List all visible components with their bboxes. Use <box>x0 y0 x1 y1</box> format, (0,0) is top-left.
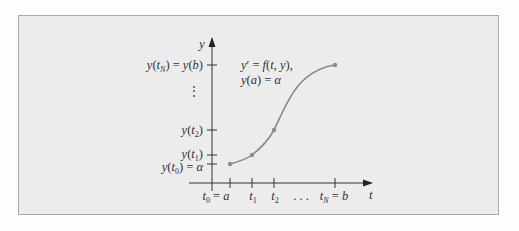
y-tick-y0: y(t0) = α <box>160 160 204 176</box>
equation-line2: y(a) = α <box>239 73 281 87</box>
x-tick-t0: t0 = a <box>202 189 229 205</box>
x-tick-ellipsis: . . . <box>293 189 309 203</box>
y-axis-label: y <box>197 36 205 51</box>
y-axis-arrow-icon <box>209 37 216 47</box>
t-axis-label: t <box>369 187 373 202</box>
x-tick-t1: t1 <box>249 189 256 205</box>
figure-frame: y t y(tN) = y(b) ⋮ y(t2) y(t1) y(t0) = α… <box>18 15 499 215</box>
x-tick-t2: t2 <box>271 189 278 205</box>
t-axis-arrow-icon <box>363 180 373 187</box>
ivp-diagram: y t y(tN) = y(b) ⋮ y(t2) y(t1) y(t0) = α… <box>19 16 500 216</box>
y-tick-y2: y(t2) <box>180 123 203 139</box>
equation-line1: y′ = f(t, y), <box>239 58 293 72</box>
y-tick-yN: y(tN) = y(b) <box>145 58 203 74</box>
x-tick-tN: tN = b <box>320 189 348 205</box>
y-tick-ellipsis: ⋮ <box>188 84 200 98</box>
